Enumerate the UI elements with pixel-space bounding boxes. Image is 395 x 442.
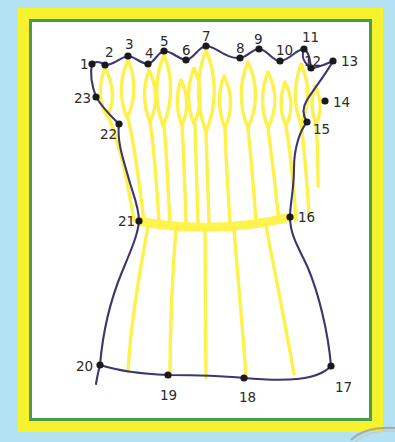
dot-1 — [88, 60, 95, 67]
wheat-stalk-lines — [108, 115, 318, 222]
dot-label-21: 21 — [118, 215, 135, 229]
dot-label-1: 1 — [80, 58, 88, 72]
dot-label-14: 14 — [333, 96, 350, 110]
dot-label-13: 13 — [341, 55, 358, 69]
dot-label-4: 4 — [145, 47, 153, 61]
dot-18 — [240, 374, 247, 381]
dot-2 — [101, 61, 108, 68]
dot-label-10: 10 — [276, 44, 293, 58]
dot-label-15: 15 — [313, 123, 330, 137]
dot-13 — [329, 57, 336, 64]
dot-label-20: 20 — [76, 360, 93, 374]
dot-21 — [135, 217, 142, 224]
dot-17 — [327, 362, 334, 369]
dot-16 — [286, 213, 293, 220]
dot-label-22: 22 — [100, 128, 117, 142]
dot-14 — [321, 97, 328, 104]
dot-label-9: 9 — [254, 33, 262, 47]
dot-label-8: 8 — [236, 42, 244, 56]
sheaf-drawing — [0, 0, 395, 442]
dot-label-7: 7 — [202, 30, 210, 44]
dot-label-2: 2 — [105, 46, 113, 60]
dot-3 — [124, 52, 131, 59]
dot-label-12: 12 — [304, 55, 321, 69]
dot-20 — [96, 361, 103, 368]
dot-label-19: 19 — [160, 389, 177, 403]
dot-label-16: 16 — [298, 211, 315, 225]
dot-11 — [300, 45, 307, 52]
dot-23 — [92, 93, 99, 100]
dot-15 — [303, 118, 310, 125]
dot-label-6: 6 — [182, 44, 190, 58]
dot-label-3: 3 — [125, 38, 133, 52]
dot-label-17: 17 — [335, 381, 352, 395]
wheat-head-leaves — [100, 50, 320, 132]
puzzle-page: 1234567891011121314151617181920212223 — [0, 0, 395, 442]
dot-10 — [276, 57, 283, 64]
dot-label-23: 23 — [74, 92, 91, 106]
dot-label-18: 18 — [239, 391, 256, 405]
dot-label-11: 11 — [302, 31, 319, 45]
dot-label-5: 5 — [160, 35, 168, 49]
wheat-lower-stalks — [128, 226, 294, 378]
dot-19 — [164, 371, 171, 378]
dot-4 — [144, 60, 151, 67]
